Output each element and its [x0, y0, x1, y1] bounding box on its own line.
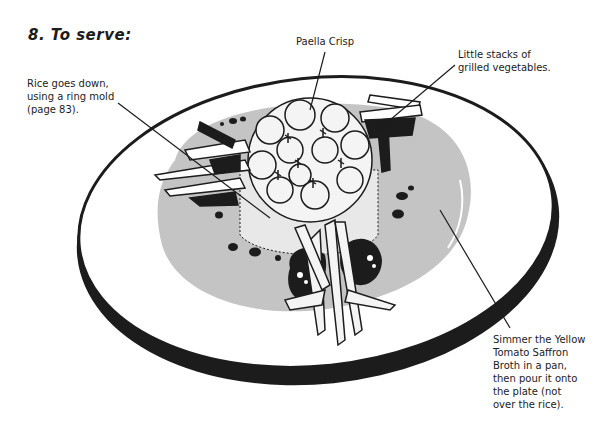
annotation-grilled-vegetables: Little stacks of grilled vegetables.	[458, 48, 551, 74]
annotation-broth: Simmer the Yellow Tomato Saffron Broth i…	[493, 333, 585, 411]
paella-crisp	[248, 98, 372, 222]
annotation-rice-mold: Rice goes down, using a ring mold (page …	[27, 77, 114, 116]
annotation-paella-crisp: Paella Crisp	[296, 35, 354, 48]
